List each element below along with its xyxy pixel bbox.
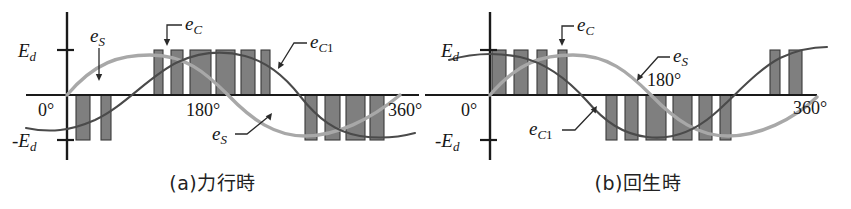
x-label-360-b: 360° [793,98,827,118]
label-ec-a: eC [185,13,202,37]
arrowhead-ec-a [164,39,170,46]
panel-b-regenerating: Ed 0° -Ed 180° 360° eC eS eC1 (b)回生時 [425,0,851,209]
y-label-zero-a: 0° [38,100,54,120]
label-ec1-a: eC1 [310,31,334,55]
leader-ec1-a [281,43,307,64]
panel-a-caption: (a)力行時 [0,168,425,195]
label-ec1-b: eC1 [529,118,553,142]
x-label-180-b: 180° [647,70,681,90]
leader-ec-b [562,26,574,40]
panel-b-caption: (b)回生時 [425,168,851,195]
y-label-ed-b: Ed [440,40,460,64]
arrowhead-ec-b [559,39,565,46]
x-label-360-a: 360° [388,100,422,120]
y-label-neg-ed-b: -Ed [435,130,460,154]
leader-ec-a [167,25,182,40]
y-label-ed-a: Ed [17,40,37,64]
x-label-180-a: 180° [186,100,220,120]
panel-a-powering: Ed 0° -Ed 180° 360° eS eC eC1 eS (a)力行時 [0,0,425,209]
label-es-upper-a: eS [90,25,105,49]
label-es-b: eS [673,45,688,69]
arrowhead-es-upper-a [96,74,102,81]
label-es-lower-a: eS [212,123,227,147]
arrowhead-ec1-a [278,61,284,69]
waveform-figure: Ed 0° -Ed 180° 360° eS eC eC1 eS (a)力行時 [0,0,851,209]
leader-ec1-b [562,111,593,130]
y-label-neg-ed-a: -Ed [12,130,37,154]
arrowhead-es-lower-a [266,113,272,121]
label-ec-b: eC [577,14,594,38]
y-label-zero-b: 0° [461,100,477,120]
